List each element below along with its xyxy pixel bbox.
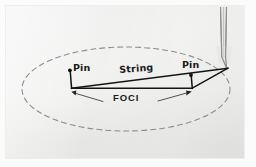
- ellipse-construction-figure: Pin String Pin FOCI: [0, 0, 256, 167]
- foci-leader-left: [71, 91, 103, 102]
- diagram-artwork: [0, 0, 256, 167]
- pin-right-marker: [189, 73, 193, 88]
- pencil-icon: [216, 7, 232, 68]
- pin-left-label: Pin: [73, 63, 90, 73]
- pin-left-marker: [68, 68, 72, 88]
- string-label: String: [119, 63, 154, 75]
- foci-label: FOCI: [113, 93, 139, 103]
- foci-leader-right: [158, 90, 192, 101]
- pin-right-label: Pin: [182, 60, 199, 70]
